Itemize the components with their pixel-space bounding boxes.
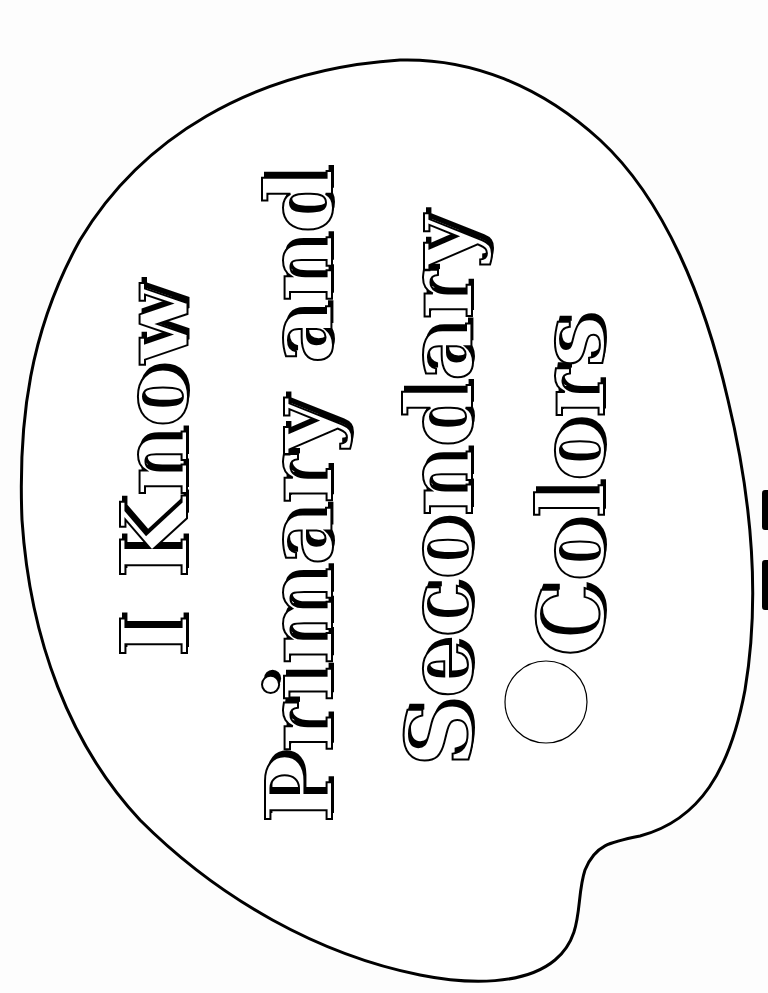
title-line-secondary: Secondary <box>394 213 486 766</box>
coloring-page: I Know Primary and Secondary Colors <box>0 0 768 993</box>
scan-edge-mark <box>762 560 768 610</box>
title-line-colors: Colors <box>526 313 618 656</box>
title-line-primary-and: Primary and <box>254 167 346 823</box>
paint-well-circle <box>505 661 587 743</box>
scan-edge-mark <box>762 490 768 530</box>
title-line-i-know: I Know <box>109 283 201 657</box>
